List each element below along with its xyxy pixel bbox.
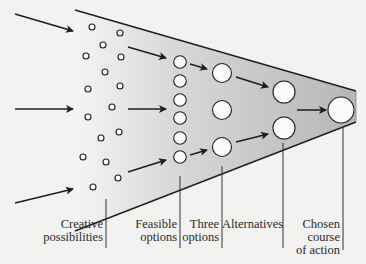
- input-arrows: [15, 14, 73, 203]
- label-three-options: Three options: [180, 218, 219, 244]
- label-line: Alternatives: [222, 218, 281, 231]
- label-creative-possibilities: Creative possibilities: [40, 218, 103, 244]
- label-line: possibilities: [40, 231, 103, 244]
- label-chosen-course: Chosen course of action: [290, 218, 340, 257]
- label-line: of action: [290, 244, 340, 257]
- label-line: options: [120, 231, 177, 244]
- funnel-shape: [75, 10, 356, 231]
- chosen-course-circle: [328, 97, 354, 123]
- label-feasible-options: Feasible options: [120, 218, 177, 244]
- three-options-circles: [213, 64, 232, 157]
- label-alternatives: Alternatives: [222, 218, 281, 231]
- label-line: options: [180, 231, 219, 244]
- arrow-in-bottom: [15, 189, 73, 203]
- arrow-in-top: [15, 14, 73, 31]
